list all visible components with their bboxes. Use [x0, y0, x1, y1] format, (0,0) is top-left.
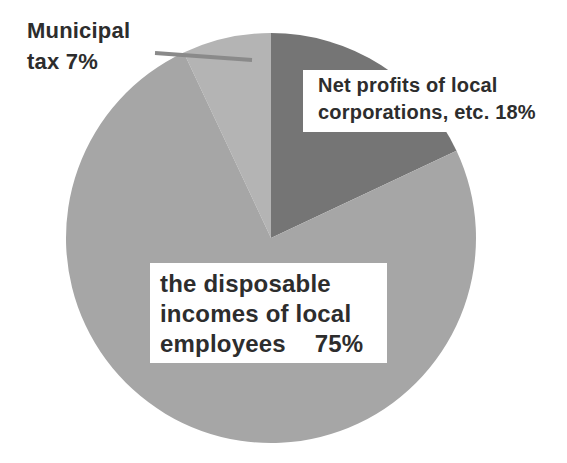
label-disposable-incomes-line2: incomes of local [160, 299, 387, 329]
disposable-incomes-percentage: 75% [315, 329, 364, 359]
label-net-profits-line1: Net profits of local [318, 72, 553, 99]
pie-chart-figure: Municipal tax 7% Net profits of local co… [0, 0, 567, 463]
label-disposable-incomes-line3-text: employees [160, 330, 286, 357]
label-net-profits: Net profits of local corporations, etc. … [303, 70, 553, 132]
label-disposable-incomes: the disposable incomes of local employee… [150, 263, 387, 363]
label-disposable-incomes-line3: employees 75% [160, 329, 387, 359]
label-municipal-tax-line1: Municipal [27, 15, 130, 46]
label-municipal-tax-line2: tax 7% [27, 46, 130, 77]
label-municipal-tax: Municipal tax 7% [27, 15, 130, 77]
label-net-profits-line2: corporations, etc. 18% [318, 99, 553, 126]
label-disposable-incomes-line1: the disposable [160, 269, 387, 299]
